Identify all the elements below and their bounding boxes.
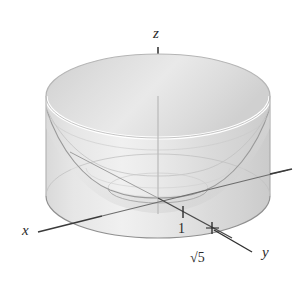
- z-axis-label: z: [152, 25, 159, 41]
- x-axis-label: x: [21, 222, 29, 238]
- math-figure-canvas: z: [0, 0, 304, 284]
- y-axis-leader-line: [214, 230, 252, 252]
- tick-one-label: 1: [178, 221, 185, 236]
- figure-svg: z: [0, 0, 304, 284]
- y-axis-label: y: [260, 244, 269, 260]
- x-axis-line-far-end: [270, 169, 292, 174]
- tick-sqrt5-label: √5: [190, 250, 205, 265]
